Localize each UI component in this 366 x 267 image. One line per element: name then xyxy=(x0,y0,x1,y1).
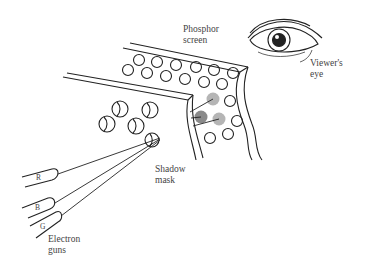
electron-guns-label: Electron guns xyxy=(48,234,80,256)
phosphor-screen-label: Phosphor screen xyxy=(183,24,219,46)
shadow-mask-label: Shadow mask xyxy=(155,164,186,186)
gun-label-r: R xyxy=(36,173,41,182)
eye-icon xyxy=(248,19,322,62)
shadow-mask-holes xyxy=(99,101,159,147)
shadow-mask-plate xyxy=(63,73,203,160)
gun-label-g: G xyxy=(40,222,45,231)
lit-phosphor-dots xyxy=(195,93,226,126)
electron-beams xyxy=(55,138,160,216)
gun-label-b: B xyxy=(35,203,40,212)
viewers-eye-label: Viewer's eye xyxy=(310,58,343,80)
